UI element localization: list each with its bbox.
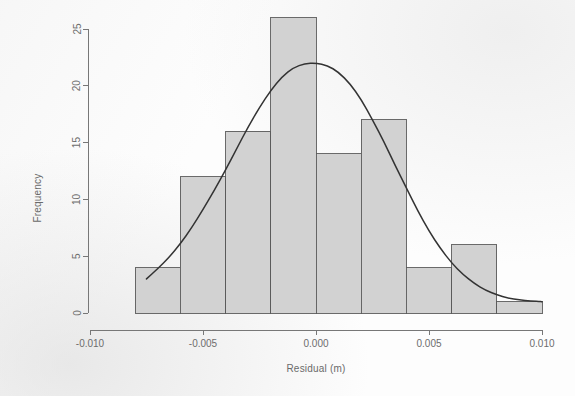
x-axis-tick-label: 0.000 — [303, 338, 328, 349]
histogram-figure: 0510152025 -0.010-0.0050.0000.0050.010 F… — [0, 0, 575, 396]
x-axis-tick-label: 0.005 — [416, 338, 441, 349]
histogram-bars — [135, 18, 542, 313]
histogram-bar — [316, 154, 361, 313]
y-axis: 0510152025 — [72, 23, 89, 316]
y-axis-label: Frequency — [32, 173, 43, 222]
x-axis-tick-label: -0.005 — [189, 338, 218, 349]
x-axis-tick-label: -0.010 — [76, 338, 105, 349]
y-axis-tick-label: 10 — [72, 193, 83, 205]
x-axis: -0.010-0.0050.0000.0050.010 — [76, 330, 555, 349]
histogram-bar — [452, 245, 497, 313]
y-axis-tick-label: 20 — [72, 80, 83, 92]
y-axis-tick-label: 15 — [72, 137, 83, 149]
histogram-bar — [406, 268, 451, 313]
histogram-bar — [497, 302, 542, 313]
histogram-bar — [361, 120, 406, 313]
histogram-bar — [180, 177, 225, 313]
y-axis-tick-label: 5 — [72, 253, 83, 259]
x-axis-label: Residual (m) — [286, 363, 345, 374]
x-axis-tick-label: 0.010 — [529, 338, 554, 349]
histogram-bar — [135, 268, 180, 313]
histogram-bar — [271, 18, 316, 313]
y-axis-tick-label: 25 — [72, 23, 83, 35]
plot-canvas: 0510152025 -0.010-0.0050.0000.0050.010 — [0, 0, 575, 396]
y-axis-tick-label: 0 — [72, 310, 83, 316]
